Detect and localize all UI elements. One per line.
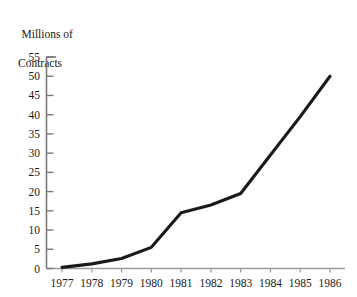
y-axis-tick-label: 35	[14, 128, 40, 140]
y-axis-tick-label: 25	[14, 166, 40, 178]
chart-page: Millions of Contracts 051015202530354045…	[0, 0, 357, 297]
y-axis-tick-label: 0	[14, 263, 40, 275]
y-axis-tick-label: 40	[14, 109, 40, 121]
y-axis-tick-label: 10	[14, 224, 40, 236]
y-axis-tick-label: 20	[14, 186, 40, 198]
y-axis-tick-label: 30	[14, 147, 40, 159]
y-axis-tick-label: 5	[14, 243, 40, 255]
y-axis-tick-label: 15	[14, 205, 40, 217]
axes	[47, 57, 346, 269]
x-axis-tick-label: 1986	[312, 277, 348, 289]
y-axis-tick-label: 55	[14, 51, 40, 63]
line-chart-plot	[0, 0, 357, 297]
data-series-line	[62, 76, 330, 267]
y-axis-tick-label: 45	[14, 89, 40, 101]
y-axis-tick-label: 50	[14, 70, 40, 82]
y-axis-ticks	[47, 57, 54, 269]
